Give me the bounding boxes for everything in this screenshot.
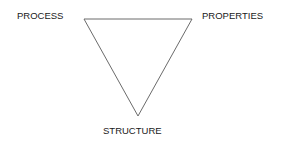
inverted-triangle: [84, 19, 192, 116]
label-structure: STRUCTURE: [103, 126, 162, 136]
triangle-shape: [0, 0, 282, 144]
label-process: PROCESS: [17, 11, 63, 21]
label-properties: PROPERTIES: [202, 11, 263, 21]
process-structure-properties-diagram: PROCESS PROPERTIES STRUCTURE: [0, 0, 282, 144]
